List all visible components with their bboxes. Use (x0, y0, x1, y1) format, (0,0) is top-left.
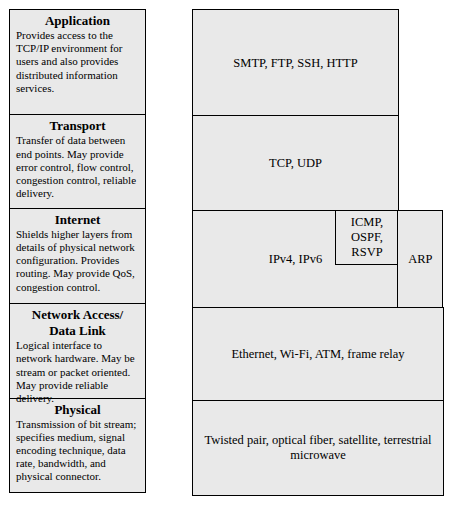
protocol-label-arp: ARP (408, 252, 432, 267)
layer-title-internet: Internet (16, 212, 139, 227)
protocol-label-icmp: ICMP, (351, 215, 383, 230)
layer-description-physical: Transmission of bit stream; specifies me… (16, 418, 139, 484)
layer-title-network-access-line1: Network Access/ (16, 307, 139, 322)
layer-title-network-access-line2: Data Link (16, 323, 139, 338)
protocol-label-transport: TCP, UDP (269, 156, 322, 171)
layer-title-application: Application (16, 13, 139, 28)
protocol-label-physical: Twisted pair, optical fiber, satellite, … (193, 433, 443, 463)
protocol-label-rsvp: RSVP (351, 245, 382, 260)
protocol-column: SMTP, FTP, SSH, HTTP TCP, UDP IPv4, IPv6… (192, 9, 444, 496)
layer-box-internet: Internet Shields higher layers from deta… (9, 208, 146, 305)
protocol-box-physical: Twisted pair, optical fiber, satellite, … (192, 400, 444, 496)
protocol-label-internet: IPv4, IPv6 (269, 252, 322, 267)
layer-box-physical: Physical Transmission of bit stream; spe… (9, 398, 146, 493)
layer-box-network-access: Network Access/ Data Link Logical interf… (9, 303, 146, 399)
protocol-box-network-access: Ethernet, Wi-Fi, ATM, frame relay (192, 307, 444, 401)
protocol-box-arp: ARP (397, 210, 443, 309)
layer-title-transport: Transport (16, 118, 139, 133)
layer-description-internet: Shields higher layers from details of ph… (16, 228, 139, 294)
protocol-box-transport: TCP, UDP (192, 115, 399, 211)
protocol-label-application: SMTP, FTP, SSH, HTTP (233, 56, 357, 71)
layer-box-application: Application Provides access to the TCP/I… (9, 9, 146, 116)
protocol-box-application: SMTP, FTP, SSH, HTTP (192, 9, 399, 117)
layer-description-column: Application Provides access to the TCP/I… (9, 9, 146, 493)
layer-description-application: Provides access to the TCP/IP environmen… (16, 29, 139, 95)
protocol-box-internet-control: ICMP, OSPF, RSVP (335, 210, 399, 265)
layer-description-transport: Transfer of data between end points. May… (16, 134, 139, 200)
layer-box-transport: Transport Transfer of data between end p… (9, 114, 146, 209)
layer-description-network-access: Logical interface to network hardware. M… (16, 339, 139, 405)
tcpip-layer-diagram: Application Provides access to the TCP/I… (0, 0, 453, 508)
protocol-label-ospf: OSPF, (351, 230, 383, 245)
protocol-label-network-access: Ethernet, Wi-Fi, ATM, frame relay (231, 347, 404, 362)
